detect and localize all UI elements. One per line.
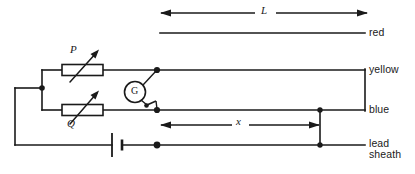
fault-node-blue	[317, 107, 322, 112]
label-lead-sheath-line2: sheath	[369, 149, 401, 160]
galvanometer	[125, 67, 161, 113]
circuit-schematic	[0, 0, 415, 174]
label-yellow: yellow	[369, 64, 399, 75]
resistor-p-body	[62, 65, 103, 76]
label-dimension-L: L	[261, 5, 267, 16]
galvanometer-contact-pivot	[144, 103, 149, 108]
label-lead-sheath: lead sheath	[369, 138, 401, 160]
label-red: red	[369, 27, 384, 38]
battery-node-sheath	[154, 142, 161, 149]
fault-node-sheath	[317, 142, 322, 147]
label-resistor-q: Q	[67, 118, 75, 129]
dimension-x-left-arrowhead	[160, 122, 171, 129]
label-galvanometer: G	[131, 85, 138, 96]
label-dimension-x: x	[236, 116, 241, 127]
battery	[112, 133, 160, 157]
galvanometer-lead-upper	[143, 71, 156, 85]
dimension-x-right-arrowhead	[309, 122, 320, 129]
galvanometer-node-yellow	[154, 67, 160, 73]
circuit-diagram: red yellow blue lead sheath L x P Q G	[0, 0, 415, 174]
variable-resistor-p	[62, 50, 103, 83]
label-blue: blue	[369, 104, 389, 115]
label-resistor-p: P	[70, 44, 77, 55]
dimension-L-right-arrowhead	[357, 10, 368, 17]
galvanometer-node-blue	[154, 107, 160, 113]
dimension-L-left-arrowhead	[160, 10, 171, 17]
